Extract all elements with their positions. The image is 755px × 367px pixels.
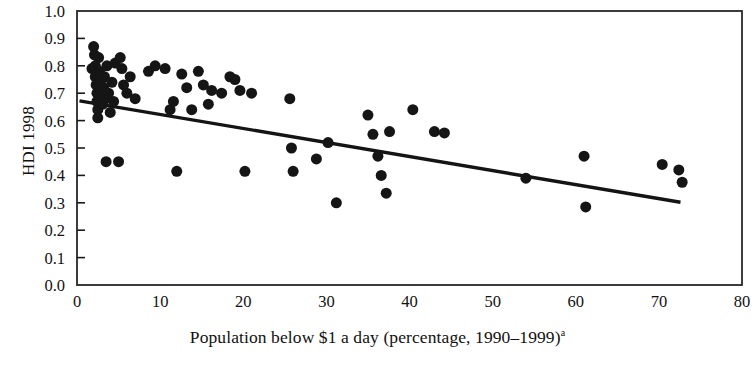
data-point <box>186 104 197 115</box>
data-point <box>206 85 217 96</box>
data-point <box>176 69 187 80</box>
scatter-plot-figure: 0.00.10.20.30.40.50.60.70.80.91.00102030… <box>0 0 755 367</box>
x-tick-label: 70 <box>651 292 668 311</box>
y-tick-label: 0.3 <box>44 194 65 213</box>
data-point <box>125 71 136 82</box>
data-point <box>311 153 322 164</box>
y-tick-label: 0.4 <box>44 166 65 185</box>
data-point <box>439 127 450 138</box>
data-point <box>323 137 334 148</box>
data-point <box>105 107 116 118</box>
x-tick-label: 50 <box>484 292 501 311</box>
chart-canvas: 0.00.10.20.30.40.50.60.70.80.91.00102030… <box>0 0 755 367</box>
y-tick-label: 0.0 <box>44 276 65 295</box>
x-tick-label: 0 <box>73 292 81 311</box>
data-point <box>234 85 245 96</box>
data-point <box>150 60 161 71</box>
data-point <box>673 164 684 175</box>
data-point <box>116 63 127 74</box>
data-point <box>376 170 387 181</box>
x-tick-label: 30 <box>318 292 335 311</box>
data-point <box>193 66 204 77</box>
x-axis-title-superscript: a <box>561 327 566 338</box>
data-point <box>203 99 214 110</box>
data-point <box>92 112 103 123</box>
data-point <box>580 201 591 212</box>
y-tick-label: 0.5 <box>44 139 65 158</box>
data-point <box>246 88 257 99</box>
y-tick-label: 0.6 <box>44 112 65 131</box>
x-tick-label: 40 <box>401 292 418 311</box>
y-tick-label: 1.0 <box>44 2 65 21</box>
x-axis-title: Population below $1 a day (percentage, 1… <box>0 327 755 348</box>
x-tick-label: 80 <box>734 292 751 311</box>
data-point <box>101 156 112 167</box>
data-point <box>106 77 117 88</box>
data-point <box>429 126 440 137</box>
data-point <box>367 129 378 140</box>
data-point <box>520 173 531 184</box>
data-point <box>407 104 418 115</box>
x-tick-label: 60 <box>568 292 585 311</box>
data-point <box>130 93 141 104</box>
data-point <box>216 88 227 99</box>
data-point <box>372 151 383 162</box>
data-point <box>113 156 124 167</box>
data-point <box>229 74 240 85</box>
x-tick-label: 10 <box>152 292 169 311</box>
data-point <box>381 188 392 199</box>
data-point <box>181 82 192 93</box>
plot-frame <box>77 11 742 285</box>
data-point <box>384 126 395 137</box>
data-point <box>579 151 590 162</box>
y-tick-label: 0.7 <box>44 84 65 103</box>
data-point <box>108 96 119 107</box>
data-point <box>657 159 668 170</box>
y-axis-title: HDI 1998 <box>19 61 39 221</box>
data-point <box>288 166 299 177</box>
data-point <box>168 96 179 107</box>
data-point <box>677 177 688 188</box>
data-point <box>239 166 250 177</box>
data-point <box>331 197 342 208</box>
x-axis-title-text: Population below $1 a day (percentage, 1… <box>190 327 561 347</box>
x-tick-label: 20 <box>235 292 252 311</box>
y-tick-label: 0.9 <box>44 29 65 48</box>
data-point <box>286 143 297 154</box>
data-point <box>284 93 295 104</box>
data-point <box>171 166 182 177</box>
y-tick-label: 0.2 <box>44 221 65 240</box>
data-point <box>160 63 171 74</box>
data-point <box>362 110 373 121</box>
data-point <box>93 52 104 63</box>
y-tick-label: 0.1 <box>44 249 65 268</box>
y-tick-label: 0.8 <box>44 57 65 76</box>
data-point <box>115 52 126 63</box>
